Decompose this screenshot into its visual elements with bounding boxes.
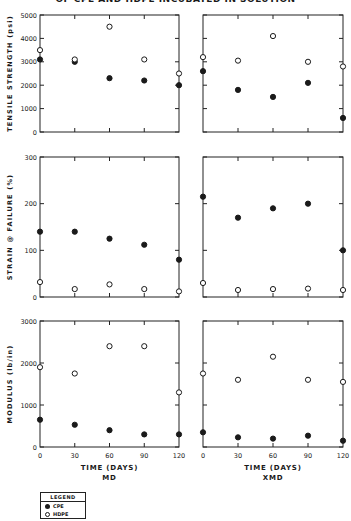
hdpe-point — [107, 282, 112, 287]
y-tick-label: 300 — [25, 154, 37, 162]
cpe-point — [176, 83, 181, 88]
hdpe-point — [176, 71, 181, 76]
x-tick-label: 120 — [337, 452, 349, 460]
hdpe-point — [72, 286, 77, 291]
x-axis-label: TIME (DAYS) — [81, 464, 138, 472]
y-tick-label: 5000 — [20, 12, 37, 20]
legend-label: HDPE — [53, 511, 68, 517]
hdpe-point — [340, 287, 345, 292]
cpe-point — [72, 229, 77, 234]
legend-item-cpe: CPE — [41, 502, 85, 510]
x-tick-label: 90 — [140, 452, 148, 460]
cpe-point — [235, 435, 240, 440]
cpe-point — [72, 422, 77, 427]
cpe-point — [142, 78, 147, 83]
hdpe-point — [270, 286, 275, 291]
hdpe-point — [37, 365, 42, 370]
x-tick-label: 30 — [71, 452, 79, 460]
cpe-point — [142, 242, 147, 247]
column-label: XMD — [263, 474, 284, 482]
legend-item-hdpe: HDPE — [41, 510, 85, 518]
cpe-point — [340, 438, 345, 443]
hdpe-point — [200, 55, 205, 60]
y-tick-label: 2000 — [20, 360, 37, 368]
hdpe-point — [340, 379, 345, 384]
legend-label: CPE — [53, 503, 64, 509]
cpe-point — [200, 430, 205, 435]
cpe-point — [107, 236, 112, 241]
cpe-point — [235, 87, 240, 92]
plot-frame — [203, 157, 343, 297]
hdpe-point — [37, 48, 42, 53]
hdpe-point — [340, 64, 345, 69]
y-tick-label: 100 — [25, 247, 37, 255]
hdpe-point — [305, 59, 310, 64]
cpe-point — [305, 80, 310, 85]
cpe-point — [176, 257, 181, 262]
hdpe-point — [270, 354, 275, 359]
cpe-point — [235, 215, 240, 220]
hdpe-point — [72, 57, 77, 62]
cpe-point — [270, 436, 275, 441]
open-circle-icon — [45, 512, 50, 517]
y-tick-label: 4000 — [20, 35, 37, 43]
y-axis-label: MODULUS (lb/in) — [6, 345, 14, 424]
cpe-point — [200, 69, 205, 74]
hdpe-point — [235, 58, 240, 63]
plot-frame — [40, 15, 179, 132]
cpe-point — [270, 206, 275, 211]
hdpe-point — [142, 286, 147, 291]
x-tick-label: 60 — [105, 452, 113, 460]
hdpe-point — [107, 24, 112, 29]
cpe-point — [270, 94, 275, 99]
cpe-point — [176, 432, 181, 437]
x-tick-label: 90 — [304, 452, 312, 460]
hdpe-point — [37, 279, 42, 284]
cpe-point — [340, 248, 345, 253]
filled-circle-icon — [45, 504, 50, 509]
x-tick-label: 0 — [201, 452, 205, 460]
cpe-point — [142, 432, 147, 437]
legend-title: LEGEND — [41, 493, 85, 502]
y-tick-label: 0 — [33, 294, 37, 302]
y-tick-label: 1000 — [20, 105, 37, 113]
y-tick-label: 1000 — [20, 402, 37, 410]
y-tick-label: 200 — [25, 200, 37, 208]
hdpe-point — [235, 377, 240, 382]
hdpe-point — [176, 289, 181, 294]
hdpe-point — [107, 344, 112, 349]
cpe-point — [340, 115, 345, 120]
hdpe-point — [142, 344, 147, 349]
x-tick-label: 30 — [234, 452, 242, 460]
y-tick-label: 2000 — [20, 82, 37, 90]
cpe-point — [37, 229, 42, 234]
cpe-point — [305, 433, 310, 438]
hdpe-point — [235, 287, 240, 292]
y-axis-label: STRAIN @ FAILURE (%) — [6, 174, 14, 281]
y-tick-label: 0 — [33, 129, 37, 137]
y-tick-label: 3000 — [20, 318, 37, 326]
cpe-point — [107, 76, 112, 81]
hdpe-point — [305, 286, 310, 291]
hdpe-point — [72, 371, 77, 376]
hdpe-point — [176, 390, 181, 395]
x-tick-label: 60 — [269, 452, 277, 460]
cpe-point — [200, 194, 205, 199]
cpe-point — [107, 428, 112, 433]
cpe-point — [37, 57, 42, 62]
hdpe-point — [142, 57, 147, 62]
y-tick-label: 0 — [33, 444, 37, 452]
hdpe-point — [200, 371, 205, 376]
chart-figure: 010002000300040005000TENSILE STRENGTH (p… — [0, 0, 351, 521]
cpe-point — [37, 417, 42, 422]
y-tick-label: 3000 — [20, 58, 37, 66]
x-tick-label: 120 — [173, 452, 185, 460]
x-tick-label: 0 — [38, 452, 42, 460]
y-axis-label: TENSILE STRENGTH (psi) — [6, 15, 14, 132]
plot-frame — [203, 321, 343, 447]
plot-frame — [203, 15, 343, 132]
hdpe-point — [305, 377, 310, 382]
legend: LEGEND CPE HDPE — [40, 492, 86, 519]
plot-frame — [40, 157, 179, 297]
hdpe-point — [270, 33, 275, 38]
